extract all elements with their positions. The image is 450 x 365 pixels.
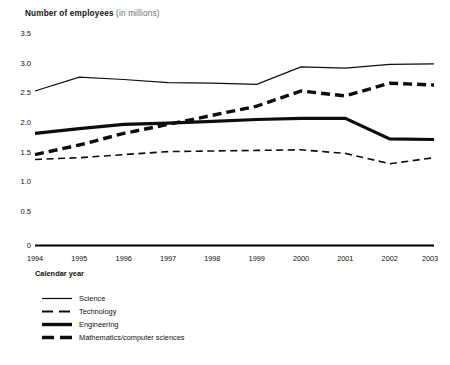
legend-label-science: Science	[79, 294, 105, 303]
x-tick-label: 2003	[422, 254, 438, 263]
x-tick-label: 1996	[116, 254, 132, 263]
chart-legend: Science Technology Engineering Mathemati…	[42, 294, 185, 342]
x-tick-label: 1999	[249, 254, 265, 263]
legend-item-mathematics[interactable]: Mathematics/computer sciences	[42, 333, 185, 342]
x-tick-label: 1995	[71, 254, 87, 263]
series-line-science	[35, 64, 434, 91]
x-tick-label: 1997	[160, 254, 176, 263]
legend-label-engineering: Engineering	[79, 320, 118, 329]
legend-item-technology[interactable]: Technology	[42, 307, 117, 316]
series-engineering	[35, 118, 434, 139]
legend-item-science[interactable]: Science	[42, 294, 105, 303]
series-science	[35, 64, 434, 91]
series-line-engineering	[35, 118, 434, 139]
y-axis-tick-labels: 3.5 3.0 2.5 2.0 1.5 1.0 0.5 0	[20, 29, 31, 250]
legend-item-engineering[interactable]: Engineering	[42, 320, 118, 329]
y-tick-label: 0	[27, 241, 31, 250]
x-tick-label: 2000	[293, 254, 309, 263]
x-axis-title: Calendar year	[35, 269, 84, 278]
series-technology	[35, 150, 434, 164]
y-tick-label: 3.0	[20, 59, 31, 68]
y-tick-label: 3.5	[20, 29, 31, 38]
x-tick-label: 1994	[27, 254, 43, 263]
x-tick-label: 2002	[382, 254, 398, 263]
x-axis-tick-labels: 1994 1995 1996 1997 1998 1999 2000 2001 …	[27, 254, 438, 263]
y-tick-label: 2.5	[20, 88, 31, 97]
y-tick-label: 2.0	[20, 118, 31, 127]
legend-label-mathematics: Mathematics/computer sciences	[79, 333, 185, 342]
legend-label-technology: Technology	[79, 307, 117, 316]
line-chart-plot: 3.5 3.0 2.5 2.0 1.5 1.0 0.5 0 1994 1995 …	[0, 0, 450, 365]
y-tick-label: 1.5	[20, 148, 31, 157]
x-tick-label: 1998	[204, 254, 220, 263]
y-tick-label: 1.0	[20, 177, 31, 186]
chart-container: Number of employees (in millions) 3.5 3.…	[0, 0, 450, 365]
series-line-technology	[35, 150, 434, 164]
x-tick-label: 2001	[337, 254, 353, 263]
y-tick-label: 0.5	[20, 207, 31, 216]
